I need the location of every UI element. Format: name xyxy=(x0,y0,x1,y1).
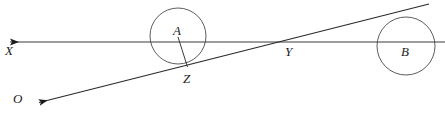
point-label-y: Y xyxy=(285,45,292,58)
point-label-a: A xyxy=(173,24,181,37)
geometry-diagram: A B X Y Z O xyxy=(0,0,445,116)
point-label-x: X xyxy=(5,44,13,57)
slanted-ray-o xyxy=(39,4,429,103)
geometry-canvas xyxy=(0,0,445,116)
point-label-b: B xyxy=(401,45,409,58)
point-label-z: Z xyxy=(183,72,190,85)
point-label-o: O xyxy=(13,92,22,105)
